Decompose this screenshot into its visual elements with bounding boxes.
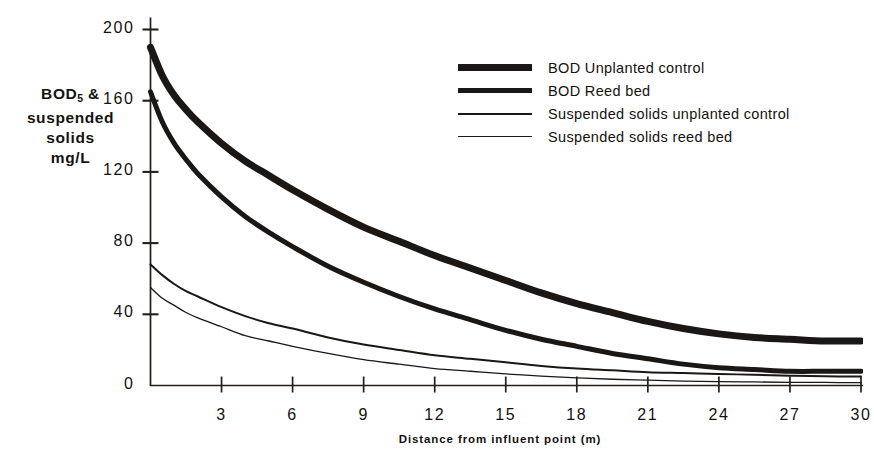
legend-swatch-box: [458, 56, 532, 79]
y-tick-label: 120: [79, 161, 135, 179]
y-tick-label: 40: [79, 303, 135, 321]
y-tick-label: 200: [79, 19, 135, 37]
legend-swatch: [458, 64, 532, 71]
y-tick-label: 80: [79, 232, 135, 250]
chart-legend: BOD Unplanted controlBOD Reed bedSuspend…: [458, 56, 858, 148]
x-axis-title: Distance from influent point (m): [290, 433, 710, 445]
legend-swatch-box: [458, 102, 532, 125]
legend-item[interactable]: Suspended solids unplanted control: [458, 102, 858, 125]
y-axis-title-line-2: suspended: [8, 108, 133, 128]
legend-item[interactable]: BOD Reed bed: [458, 79, 858, 102]
y-axis-title-line-3: solids: [8, 128, 133, 148]
x-tick-label: 15: [486, 406, 526, 424]
x-tick-label: 12: [415, 406, 455, 424]
y-tick-label: 0: [79, 375, 135, 393]
legend-swatch: [458, 113, 532, 115]
legend-label: Suspended solids unplanted control: [532, 106, 790, 122]
legend-swatch-box: [458, 79, 532, 102]
x-tick-label: 3: [202, 406, 242, 424]
legend-swatch: [458, 136, 532, 137]
x-tick-label: 30: [841, 406, 874, 424]
x-tick-label: 24: [699, 406, 739, 424]
legend-label: BOD Reed bed: [532, 83, 651, 99]
legend-swatch-box: [458, 125, 532, 148]
legend-item[interactable]: Suspended solids reed bed: [458, 125, 858, 148]
x-tick-label: 18: [557, 406, 597, 424]
y-tick-label: 160: [79, 90, 135, 108]
legend-label: Suspended solids reed bed: [532, 129, 733, 145]
x-tick-label: 21: [628, 406, 668, 424]
legend-label: BOD Unplanted control: [532, 60, 704, 76]
legend-swatch: [458, 88, 532, 93]
x-tick-label: 27: [770, 406, 810, 424]
legend-item[interactable]: BOD Unplanted control: [458, 56, 858, 79]
x-tick-label: 9: [344, 406, 384, 424]
x-tick-label: 6: [273, 406, 313, 424]
